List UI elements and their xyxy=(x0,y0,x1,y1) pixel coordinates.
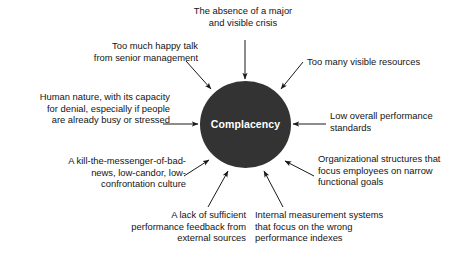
arrow-happy-talk xyxy=(186,61,211,89)
cause-happy-talk: Too much happy talk from senior manageme… xyxy=(50,40,198,63)
cause-low-performance-standards: Low overall performance standards xyxy=(330,110,468,133)
cause-human-nature: Human nature, with its capacity for deni… xyxy=(4,91,170,126)
arrow-organizational-structures xyxy=(285,161,314,176)
arrow-internal-measurement xyxy=(264,171,283,207)
hub-label: Complacency xyxy=(211,119,280,131)
cause-visible-resources: Too many visible resources xyxy=(307,56,467,68)
arrow-kill-the-messenger xyxy=(184,160,209,176)
cause-absence-of-crisis: The absence of a major and visible crisi… xyxy=(168,5,318,28)
cause-lack-of-feedback: A lack of sufficient performance feedbac… xyxy=(112,209,246,244)
cause-internal-measurement: Internal measurement systems that focus … xyxy=(255,209,407,244)
arrow-visible-resources xyxy=(281,62,303,89)
arrow-lack-of-feedback xyxy=(208,171,228,207)
complacency-cause-diagram: Complacency The absence of a major and v… xyxy=(0,0,471,266)
hub-circle: Complacency xyxy=(200,81,291,168)
cause-kill-the-messenger-culture: A kill-the-messenger-of-bad- news, low-c… xyxy=(33,155,186,190)
cause-organizational-structures: Organizational structures that focus emp… xyxy=(318,153,470,188)
